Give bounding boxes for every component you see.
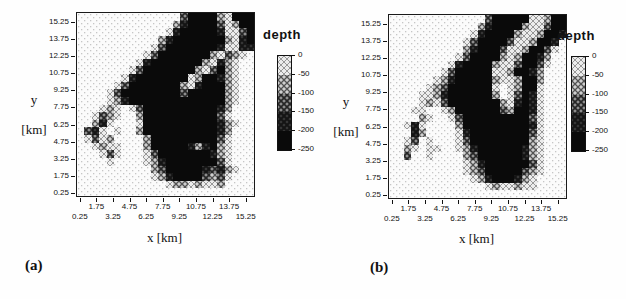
heatmap-cell: [188, 36, 196, 44]
heatmap-cell: [404, 91, 412, 99]
heatmap-cell: [522, 30, 530, 38]
heatmap-cell: [239, 173, 247, 181]
heatmap-cell: [143, 112, 151, 120]
heatmap-cell: [411, 129, 419, 137]
heatmap-cell: [225, 127, 233, 135]
heatmap-cell: [463, 175, 471, 183]
heatmap-cell: [217, 28, 225, 36]
heatmap-cell: [470, 107, 478, 115]
heatmap-cell: [202, 181, 210, 189]
heatmap-cell: [470, 175, 478, 183]
heatmap-cell: [389, 175, 397, 183]
heatmap-cell: [448, 99, 456, 107]
heatmap-cell: [107, 36, 115, 44]
heatmap-cell: [500, 190, 508, 198]
heatmap-cell: [225, 181, 233, 189]
heatmap-cell: [537, 61, 545, 69]
heatmap-cell: [419, 122, 427, 130]
heatmap-cell: [529, 53, 537, 61]
heatmap-cell: [107, 166, 115, 174]
heatmap-cell: [411, 122, 419, 130]
heatmap-cell: [448, 137, 456, 145]
heatmap-cell: [404, 61, 412, 69]
heatmap-cell: [202, 173, 210, 181]
heatmap-cell: [485, 114, 493, 122]
heatmap-cell: [389, 145, 397, 153]
y-tick-label: 13.75: [43, 35, 69, 43]
heatmap-cell: [463, 137, 471, 145]
heatmap-cell: [114, 59, 122, 67]
heatmap-cell: [396, 76, 404, 84]
heatmap-cell: [247, 21, 254, 29]
heatmap-cell: [389, 137, 397, 145]
heatmap-cell: [180, 120, 188, 128]
heatmap-cell: [121, 66, 129, 74]
heatmap-cell: [173, 82, 181, 90]
heatmap-cell: [107, 143, 115, 151]
heatmap-cell: [448, 122, 456, 130]
heatmap-cell: [195, 105, 203, 113]
heatmap-cell: [478, 30, 486, 38]
heatmap-cell: [107, 158, 115, 166]
x-tick-mark: [246, 198, 247, 202]
heatmap-cell: [84, 166, 92, 174]
heatmap-cell: [239, 188, 247, 196]
heatmap-cell: [537, 190, 545, 198]
heatmap-cell: [551, 183, 559, 191]
heatmap-cell: [485, 122, 493, 130]
heatmap-cell: [247, 166, 254, 174]
heatmap-cell: [448, 168, 456, 176]
heatmap-cell: [247, 105, 254, 113]
heatmap-cell: [217, 36, 225, 44]
colorbar-title-b: depth: [557, 28, 619, 43]
heatmap-cell: [77, 105, 85, 113]
heatmap-cell: [158, 127, 166, 135]
heatmap-cell: [455, 23, 463, 31]
heatmap-cell: [99, 150, 107, 158]
heatmap-cell: [232, 127, 240, 135]
heatmap-cell: [217, 66, 225, 74]
colorbar-tick-mark: [292, 93, 295, 94]
heatmap-cell: [419, 160, 427, 168]
heatmap-cell: [129, 188, 137, 196]
y-tick-label: 4.75: [355, 140, 381, 148]
x-tick-mark: [113, 198, 114, 202]
heatmap-cell: [441, 129, 449, 137]
heatmap-cell: [478, 107, 486, 115]
colorbar-tick-mark: [586, 75, 589, 76]
heatmap-cell: [389, 129, 397, 137]
heatmap-cell: [121, 188, 129, 196]
heatmap-cell: [158, 28, 166, 36]
heatmap-cell: [411, 183, 419, 191]
heatmap-cell: [239, 89, 247, 97]
heatmap-cell: [202, 188, 210, 196]
y-tick-mark: [71, 107, 75, 108]
heatmap-cell: [121, 120, 129, 128]
heatmap-cell: [232, 74, 240, 82]
heatmap-cell: [143, 135, 151, 143]
heatmap-cell: [84, 89, 92, 97]
heatmap-cell: [210, 74, 218, 82]
heatmap-cell: [210, 89, 218, 97]
heatmap-cell: [441, 53, 449, 61]
heatmap-cell: [99, 21, 107, 29]
heatmap-cell: [426, 53, 434, 61]
heatmap-cell: [84, 158, 92, 166]
heatmap-cell: [485, 145, 493, 153]
heatmap-cell: [463, 145, 471, 153]
heatmap-cell: [173, 97, 181, 105]
heatmap-cell: [77, 28, 85, 36]
heatmap-cell: [441, 76, 449, 84]
heatmap-cell: [500, 61, 508, 69]
heatmap-cell: [121, 112, 129, 120]
y-tick-mark: [71, 125, 75, 126]
heatmap-cell: [217, 120, 225, 128]
heatmap-cell: [492, 190, 500, 198]
heatmap-cell: [529, 190, 537, 198]
heatmap-cell: [404, 84, 412, 92]
heatmap-cell: [411, 38, 419, 46]
heatmap-cell: [99, 82, 107, 90]
heatmap-cell: [514, 91, 522, 99]
heatmap-cell: [411, 91, 419, 99]
heatmap-cell: [107, 28, 115, 36]
